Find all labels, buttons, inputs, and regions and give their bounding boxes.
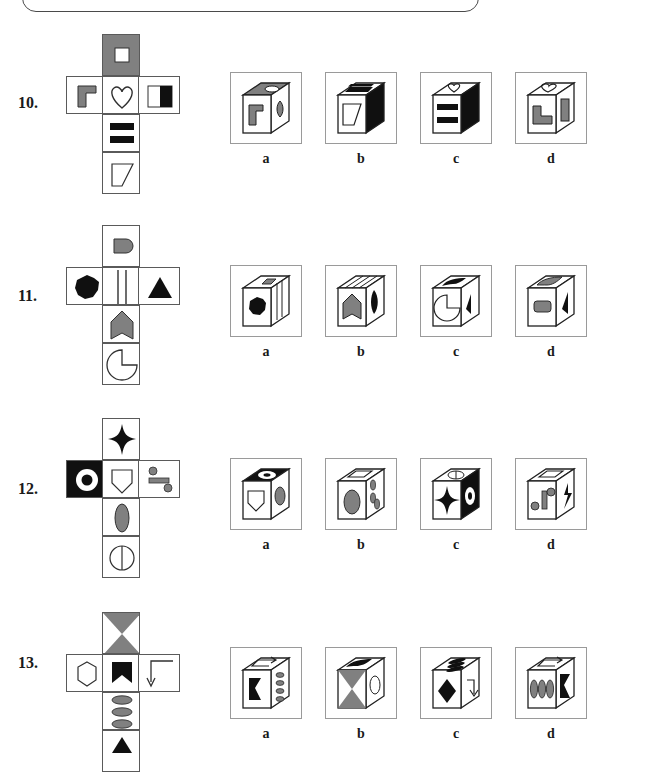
page-header-box [22, 0, 479, 12]
net-cell-bottom1 [102, 692, 140, 730]
net-cell-right [138, 267, 180, 305]
net-cell-left [66, 76, 106, 114]
net-cell-left [66, 654, 106, 692]
option-label: d [515, 726, 587, 742]
option-b[interactable]: b [325, 458, 397, 553]
net-cell-middle [102, 460, 140, 498]
option-d[interactable]: d [515, 72, 587, 167]
option-frame[interactable] [325, 458, 397, 530]
question-row-12: 12. [0, 418, 655, 583]
net-cell-middle [102, 654, 140, 692]
option-label: a [230, 151, 302, 167]
option-frame[interactable] [420, 72, 492, 144]
net-cell-bottom2 [102, 152, 140, 194]
question-row-11: 11. [0, 225, 655, 390]
option-frame[interactable] [230, 647, 302, 719]
option-frame[interactable] [325, 72, 397, 144]
option-c[interactable]: c [420, 72, 492, 167]
option-a[interactable]: a [230, 647, 302, 742]
option-c[interactable]: c [420, 265, 492, 360]
net-cell-bottom2 [102, 343, 140, 385]
option-a[interactable]: a [230, 265, 302, 360]
answer-options-10: a b [220, 34, 655, 194]
option-label: a [230, 344, 302, 360]
option-label: b [325, 537, 397, 553]
net-cell-left [66, 267, 106, 305]
option-frame[interactable] [515, 265, 587, 337]
option-label: b [325, 726, 397, 742]
net-cell-middle [102, 267, 140, 305]
option-frame[interactable] [420, 265, 492, 337]
option-d[interactable]: d [515, 458, 587, 553]
option-label: c [420, 344, 492, 360]
question-row-13: 13. [0, 612, 655, 736]
option-frame[interactable] [515, 458, 587, 530]
option-d[interactable]: d [515, 647, 587, 742]
question-number: 12. [18, 480, 38, 498]
option-a[interactable]: a [230, 72, 302, 167]
question-row-10: 10. [0, 34, 655, 194]
cube-net-10 [66, 34, 206, 194]
option-c[interactable]: c [420, 458, 492, 553]
net-cell-bottom1 [102, 305, 140, 343]
net-cell-right [138, 76, 180, 114]
option-frame[interactable] [325, 647, 397, 719]
answer-options-11: a b [220, 225, 655, 390]
option-frame[interactable] [230, 265, 302, 337]
question-number: 13. [18, 654, 38, 672]
question-number: 10. [18, 94, 38, 112]
option-frame[interactable] [230, 72, 302, 144]
option-frame[interactable] [515, 647, 587, 719]
net-cell-middle [102, 76, 140, 114]
net-cell-top [102, 34, 140, 76]
option-b[interactable]: b [325, 647, 397, 742]
option-label: b [325, 151, 397, 167]
option-label: d [515, 151, 587, 167]
net-cell-right [138, 654, 180, 692]
option-label: a [230, 726, 302, 742]
net-cell-right [138, 460, 180, 498]
option-b[interactable]: b [325, 72, 397, 167]
net-cell-bottom1 [102, 498, 140, 536]
net-cell-top [102, 225, 140, 267]
cube-net-11 [66, 225, 206, 385]
option-c[interactable]: c [420, 647, 492, 742]
question-number: 11. [18, 287, 37, 305]
option-label: a [230, 537, 302, 553]
option-label: d [515, 537, 587, 553]
option-frame[interactable] [515, 72, 587, 144]
option-frame[interactable] [325, 265, 397, 337]
net-cell-top [102, 418, 140, 460]
option-label: d [515, 344, 587, 360]
cube-net-12 [66, 418, 206, 578]
cube-net-13 [66, 612, 206, 772]
answer-options-13: a b [220, 612, 655, 736]
option-a[interactable]: a [230, 458, 302, 553]
option-label: b [325, 344, 397, 360]
option-label: c [420, 537, 492, 553]
option-label: c [420, 151, 492, 167]
net-cell-top [102, 612, 140, 654]
net-cell-left [66, 460, 106, 498]
option-b[interactable]: b [325, 265, 397, 360]
option-label: c [420, 726, 492, 742]
option-frame[interactable] [230, 458, 302, 530]
answer-options-12: a b [220, 418, 655, 583]
option-frame[interactable] [420, 458, 492, 530]
net-cell-bottom2 [102, 536, 140, 578]
net-cell-bottom1 [102, 114, 140, 152]
option-d[interactable]: d [515, 265, 587, 360]
net-cell-bottom2 [102, 730, 140, 772]
option-frame[interactable] [420, 647, 492, 719]
